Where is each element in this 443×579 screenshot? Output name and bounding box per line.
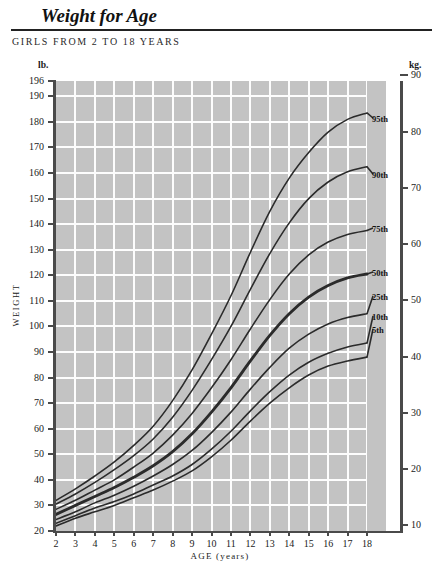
percentile-curve-95th bbox=[56, 113, 367, 500]
tick-mark-right bbox=[400, 187, 408, 189]
percentile-curve-25th bbox=[56, 314, 367, 520]
right-axis-spine bbox=[400, 81, 403, 531]
tick-mark-left bbox=[48, 146, 56, 148]
tick-label-left: 40 bbox=[14, 474, 44, 485]
tick-mark-left bbox=[48, 479, 56, 481]
percentile-label-10th: 10th bbox=[372, 312, 388, 322]
tick-label-left: 80 bbox=[14, 372, 44, 383]
tick-mark-bottom bbox=[366, 531, 368, 536]
y-axis-title: WEIGHT bbox=[11, 275, 21, 335]
tick-label-bottom: 13 bbox=[260, 538, 280, 549]
tick-mark-left bbox=[48, 198, 56, 200]
tick-label-left: 30 bbox=[14, 499, 44, 510]
tick-mark-bottom bbox=[113, 531, 115, 536]
tick-mark-right bbox=[400, 468, 408, 470]
tick-label-left: 70 bbox=[14, 397, 44, 408]
x-axis-title: AGE (years) bbox=[150, 551, 290, 561]
tick-label-left: 60 bbox=[14, 423, 44, 434]
tick-label-left: 160 bbox=[14, 167, 44, 178]
tick-mark-left bbox=[48, 402, 56, 404]
tick-mark-bottom bbox=[133, 531, 135, 536]
tick-label-bottom: 6 bbox=[124, 538, 144, 549]
tick-label-right: 40 bbox=[411, 351, 437, 362]
tick-mark-bottom bbox=[152, 531, 154, 536]
tick-mark-right bbox=[400, 299, 408, 301]
tick-label-bottom: 3 bbox=[65, 538, 85, 549]
tick-label-bottom: 2 bbox=[46, 538, 66, 549]
tick-label-bottom: 5 bbox=[104, 538, 124, 549]
tick-mark-bottom bbox=[327, 531, 329, 536]
tick-mark-left bbox=[48, 325, 56, 327]
tick-mark-bottom bbox=[55, 531, 57, 536]
tick-mark-left bbox=[48, 95, 56, 97]
tick-label-bottom: 12 bbox=[240, 538, 260, 549]
left-axis-spine bbox=[53, 81, 56, 531]
tick-mark-left bbox=[48, 428, 56, 430]
tick-label-bottom: 10 bbox=[202, 538, 222, 549]
tick-mark-left bbox=[48, 223, 56, 225]
tick-label-bottom: 16 bbox=[318, 538, 338, 549]
tick-mark-left bbox=[48, 377, 56, 379]
tick-label-right: 70 bbox=[411, 182, 437, 193]
tick-label-bottom: 8 bbox=[163, 538, 183, 549]
percentile-label-50th: 50th bbox=[372, 268, 388, 278]
tick-mark-left bbox=[48, 80, 56, 82]
tick-label-left: 50 bbox=[14, 448, 44, 459]
tick-mark-right bbox=[400, 524, 408, 526]
percentile-label-95th: 95th bbox=[372, 114, 388, 124]
tick-mark-left bbox=[48, 504, 56, 506]
growth-chart: 2030405060708090100110120130140150160170… bbox=[0, 0, 443, 579]
percentile-label-75th: 75th bbox=[372, 224, 388, 234]
tick-label-bottom: 9 bbox=[182, 538, 202, 549]
tick-label-right: 80 bbox=[411, 126, 437, 137]
tick-mark-bottom bbox=[211, 531, 213, 536]
tick-mark-right bbox=[400, 74, 408, 76]
tick-label-right: 90 bbox=[411, 69, 437, 80]
tick-mark-bottom bbox=[230, 531, 232, 536]
tick-label-right: 10 bbox=[411, 519, 437, 530]
tick-label-bottom: 15 bbox=[299, 538, 319, 549]
tick-label-bottom: 4 bbox=[85, 538, 105, 549]
percentile-label-25th: 25th bbox=[372, 292, 388, 302]
tick-mark-bottom bbox=[288, 531, 290, 536]
tick-mark-bottom bbox=[94, 531, 96, 536]
tick-mark-left bbox=[48, 453, 56, 455]
tick-label-right: 20 bbox=[411, 463, 437, 474]
tick-label-left: 150 bbox=[14, 193, 44, 204]
tick-label-left: 130 bbox=[14, 244, 44, 255]
tick-mark-bottom bbox=[172, 531, 174, 536]
tick-label-bottom: 18 bbox=[357, 538, 377, 549]
tick-mark-bottom bbox=[249, 531, 251, 536]
tick-mark-right bbox=[400, 131, 408, 133]
tick-label-left: 190 bbox=[14, 90, 44, 101]
tick-mark-bottom bbox=[191, 531, 193, 536]
tick-label-bottom: 11 bbox=[221, 538, 241, 549]
tick-label-left: 20 bbox=[14, 525, 44, 536]
percentile-label-5th: 5th bbox=[372, 325, 384, 335]
tick-label-right: 30 bbox=[411, 407, 437, 418]
tick-mark-bottom bbox=[74, 531, 76, 536]
tick-mark-left bbox=[48, 274, 56, 276]
tick-mark-right bbox=[400, 243, 408, 245]
percentile-curves bbox=[56, 81, 386, 531]
tick-mark-left bbox=[48, 300, 56, 302]
tick-label-right: 50 bbox=[411, 294, 437, 305]
tick-mark-bottom bbox=[269, 531, 271, 536]
tick-mark-bottom bbox=[308, 531, 310, 536]
tick-mark-right bbox=[400, 356, 408, 358]
tick-label-bottom: 14 bbox=[279, 538, 299, 549]
tick-mark-left bbox=[48, 121, 56, 123]
tick-label-bottom: 7 bbox=[143, 538, 163, 549]
tick-label-left: 140 bbox=[14, 218, 44, 229]
bottom-axis-spine bbox=[53, 531, 403, 533]
tick-label-bottom: 17 bbox=[338, 538, 358, 549]
tick-mark-bottom bbox=[347, 531, 349, 536]
tick-mark-left bbox=[48, 172, 56, 174]
tick-mark-left bbox=[48, 249, 56, 251]
tick-mark-left bbox=[48, 351, 56, 353]
tick-label-left: 170 bbox=[14, 141, 44, 152]
tick-label-left: 196 bbox=[14, 75, 44, 86]
percentile-label-90th: 90th bbox=[372, 170, 388, 180]
tick-label-left: 90 bbox=[14, 346, 44, 357]
tick-label-left: 180 bbox=[14, 116, 44, 127]
